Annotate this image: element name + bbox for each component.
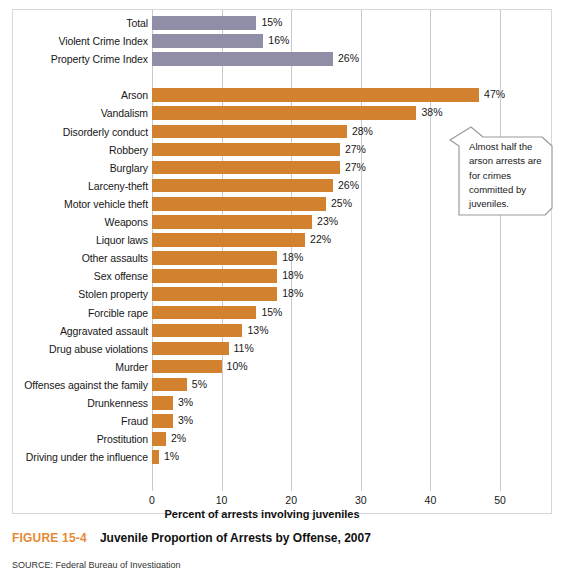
bar-row: Offenses against the family5% bbox=[0, 376, 564, 394]
bar-wrapper: 47% bbox=[152, 88, 479, 102]
bar-category-label: Fraud bbox=[121, 412, 148, 430]
bar bbox=[152, 306, 256, 320]
bar bbox=[152, 396, 173, 410]
bar-category-label: Drug abuse violations bbox=[49, 340, 148, 358]
bar bbox=[152, 161, 340, 175]
bar-row: Prostitution2% bbox=[0, 430, 564, 448]
bar-row: Liquor laws22% bbox=[0, 231, 564, 249]
bar-value-label: 18% bbox=[282, 269, 303, 283]
x-tick-label-20: 20 bbox=[285, 494, 297, 506]
bar-wrapper: 18% bbox=[152, 287, 277, 301]
bar bbox=[152, 179, 333, 193]
bar-category-label: Sex offense bbox=[94, 267, 148, 285]
bar bbox=[152, 125, 347, 139]
bar-wrapper: 38% bbox=[152, 106, 416, 120]
bar-value-label: 5% bbox=[192, 378, 207, 392]
bar-category-label: Other assaults bbox=[82, 249, 148, 267]
bar bbox=[152, 197, 326, 211]
bar-category-label: Vandalism bbox=[101, 104, 148, 122]
bar-value-label: 23% bbox=[317, 215, 338, 229]
bar-category-label: Burglary bbox=[110, 159, 148, 177]
bar-value-label: 1% bbox=[164, 450, 179, 464]
bar-category-label: Offenses against the family bbox=[24, 376, 148, 394]
bar-wrapper: 3% bbox=[152, 396, 173, 410]
bar-wrapper: 1% bbox=[152, 450, 159, 464]
bar-category-label: Property Crime Index bbox=[51, 50, 148, 68]
bar-value-label: 47% bbox=[484, 88, 505, 102]
bar-row: Violent Crime Index16% bbox=[0, 32, 564, 50]
bar-value-label: 27% bbox=[345, 161, 366, 175]
bar bbox=[152, 287, 277, 301]
bar-wrapper: 15% bbox=[152, 306, 256, 320]
bar-wrapper: 25% bbox=[152, 197, 326, 211]
bar bbox=[152, 342, 229, 356]
x-axis-tick-labels: 01020304050 bbox=[0, 494, 564, 508]
bar-value-label: 27% bbox=[345, 143, 366, 157]
bar-category-label: Liquor laws bbox=[96, 231, 148, 249]
x-tick-label-50: 50 bbox=[494, 494, 506, 506]
bar-value-label: 3% bbox=[178, 396, 193, 410]
bar-value-label: 22% bbox=[310, 233, 331, 247]
bar-row: Aggravated assault13% bbox=[0, 322, 564, 340]
bar-rows-group: Total15%Violent Crime Index16%Property C… bbox=[0, 14, 564, 466]
bar bbox=[152, 360, 222, 374]
x-tick-label-40: 40 bbox=[425, 494, 437, 506]
bar-row: Forcible rape15% bbox=[0, 304, 564, 322]
bar-category-label: Driving under the influence bbox=[26, 448, 148, 466]
bar-category-label: Aggravated assault bbox=[60, 322, 148, 340]
x-axis-title-text: Percent of arrests involving juveniles bbox=[164, 508, 359, 520]
bar-wrapper: 22% bbox=[152, 233, 305, 247]
bar bbox=[152, 215, 312, 229]
annotation-callout: Almost half the arson arrests are for cr… bbox=[449, 124, 556, 217]
bar-wrapper: 18% bbox=[152, 251, 277, 265]
bar-category-label: Prostitution bbox=[97, 430, 148, 448]
figure-title: Juvenile Proportion of Arrests by Offens… bbox=[100, 531, 371, 545]
bar-row: Driving under the influence1% bbox=[0, 448, 564, 466]
bar-wrapper: 18% bbox=[152, 269, 277, 283]
bar-category-label: Drunkenness bbox=[87, 394, 148, 412]
figure-caption: FIGURE 15-4Juvenile Proportion of Arrest… bbox=[12, 528, 564, 546]
bar-row: Murder10% bbox=[0, 358, 564, 376]
bar-row: Arson47% bbox=[0, 86, 564, 104]
plot-area: Total15%Violent Crime Index16%Property C… bbox=[0, 0, 564, 514]
x-tick-label-10: 10 bbox=[216, 494, 228, 506]
bar-category-label: Disorderly conduct bbox=[63, 123, 148, 141]
bar-value-label: 26% bbox=[338, 52, 359, 66]
bar-value-label: 26% bbox=[338, 179, 359, 193]
bar-wrapper: 13% bbox=[152, 324, 242, 338]
bar-value-label: 15% bbox=[261, 306, 282, 320]
bar-value-label: 25% bbox=[331, 197, 352, 211]
bar bbox=[152, 143, 340, 157]
bar-wrapper: 15% bbox=[152, 16, 256, 30]
bar-wrapper: 3% bbox=[152, 414, 173, 428]
bar bbox=[152, 233, 305, 247]
bar-category-label: Robbery bbox=[109, 141, 148, 159]
bar-value-label: 15% bbox=[261, 16, 282, 30]
bar-category-label: Stolen property bbox=[78, 285, 148, 303]
bar-value-label: 16% bbox=[268, 34, 289, 48]
x-axis-title: Percent of arrests involving juveniles bbox=[0, 508, 564, 520]
bar-wrapper: 2% bbox=[152, 432, 166, 446]
bar bbox=[152, 16, 256, 30]
bar-value-label: 28% bbox=[352, 125, 373, 139]
bar-wrapper: 27% bbox=[152, 161, 340, 175]
callout-text: Almost half the arson arrests are for cr… bbox=[469, 140, 549, 211]
bar bbox=[152, 52, 333, 66]
bar bbox=[152, 269, 277, 283]
bar-category-label: Forcible rape bbox=[88, 304, 148, 322]
bar-category-label: Total bbox=[126, 14, 148, 32]
bar-category-label: Arson bbox=[121, 86, 148, 104]
bar-wrapper: 5% bbox=[152, 378, 187, 392]
x-tick-label-30: 30 bbox=[355, 494, 367, 506]
bar bbox=[152, 324, 242, 338]
bar-value-label: 3% bbox=[178, 414, 193, 428]
bar bbox=[152, 88, 479, 102]
bar-wrapper: 28% bbox=[152, 125, 347, 139]
bar-row: Sex offense18% bbox=[0, 267, 564, 285]
figure-number: FIGURE 15-4 bbox=[12, 531, 87, 545]
bar-category-label: Violent Crime Index bbox=[58, 32, 148, 50]
bar-row: Total15% bbox=[0, 14, 564, 32]
bar-row: Stolen property18% bbox=[0, 285, 564, 303]
bar-wrapper: 23% bbox=[152, 215, 312, 229]
bar bbox=[152, 432, 166, 446]
